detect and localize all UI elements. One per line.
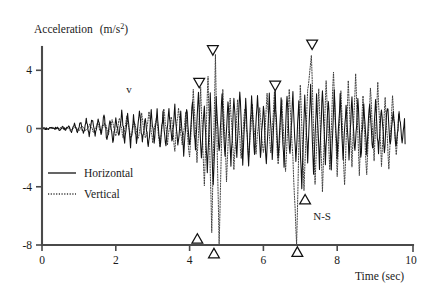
seismograph-chart: 40-4-8 0246810 Acceleration(m/s2) Time (…	[0, 0, 430, 286]
x-tick-label: 2	[113, 254, 119, 266]
peak-marker-down-icon	[194, 78, 205, 87]
peak-marker-up-icon	[209, 248, 220, 257]
x-tick-label: 8	[334, 254, 340, 266]
y-tick-label: 0	[26, 123, 32, 135]
y-tick-group: 40-4-8	[22, 64, 42, 251]
x-tick-label: 0	[39, 254, 45, 266]
vertical-trace	[42, 54, 399, 245]
x-tick-label: 4	[187, 254, 193, 266]
chart-canvas: 40-4-8 0246810 Acceleration(m/s2) Time (…	[0, 0, 430, 286]
y-tick-label: -8	[22, 239, 32, 251]
peak-marker-down-icon	[270, 81, 281, 90]
x-tick-label: 10	[405, 254, 417, 266]
legend-label-vertical: Vertical	[84, 188, 120, 200]
legend: Horizontal Vertical	[48, 167, 133, 200]
x-tick-group: 0246810	[39, 245, 417, 266]
y-tick-label: -4	[22, 181, 32, 193]
chart-annotation: N-S	[313, 210, 331, 222]
chart-annotation: v	[126, 83, 132, 95]
peak-marker-up-icon	[292, 247, 303, 256]
y-axis-label: Acceleration(m/s2)	[34, 22, 128, 36]
peak-marker-down-icon	[207, 46, 218, 55]
x-axis-label: Time (sec)	[355, 270, 404, 283]
y-tick-label: 4	[26, 64, 32, 76]
data-traces	[42, 54, 405, 245]
x-tick-label: 6	[261, 254, 267, 266]
peak-marker-up-icon	[300, 194, 311, 203]
legend-label-horizontal: Horizontal	[84, 167, 133, 179]
peak-marker-up-icon	[192, 234, 203, 243]
peak-marker-down-icon	[307, 40, 318, 49]
